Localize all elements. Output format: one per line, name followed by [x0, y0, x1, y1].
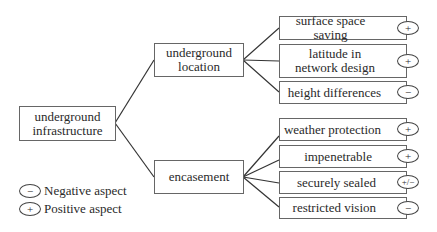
positive-aspect-icon: + [397, 54, 419, 68]
leaf-height-differences: height differences [279, 81, 407, 104]
mixed-aspect-icon: +/− [397, 175, 419, 189]
branch-label-2: location [178, 60, 220, 74]
negative-aspect-icon: − [19, 184, 41, 198]
positive-aspect-icon: + [397, 149, 419, 163]
root-label-2: infrastructure [32, 124, 102, 138]
root-node: underground infrastructure [19, 106, 116, 141]
negative-aspect-icon: − [397, 201, 419, 215]
legend-positive: + Positive aspect [19, 201, 122, 217]
leaf-label: impenetrable [304, 150, 372, 164]
legend-negative: − Negative aspect [19, 183, 127, 199]
leaf-label: height differences [288, 86, 381, 100]
leaf-label-2: network design [295, 61, 375, 75]
branch-label: encasement [169, 170, 230, 184]
legend-label: Negative aspect [44, 183, 127, 199]
negative-aspect-icon: − [397, 85, 419, 99]
leaf-label: securely sealed [297, 176, 376, 190]
positive-aspect-icon: + [397, 122, 419, 136]
leaf-label: surface space saving [280, 14, 381, 42]
positive-aspect-icon: + [397, 21, 419, 35]
positive-aspect-icon: + [19, 202, 41, 216]
root-label-1: underground [34, 110, 100, 124]
leaf-label: weather protection [284, 123, 381, 137]
leaf-label: restricted vision [293, 201, 376, 215]
branch-encasement: encasement [154, 160, 244, 194]
leaf-surface-space-saving: surface space saving [279, 16, 407, 40]
leaf-latitude-network-design: latitude in network design [279, 44, 407, 78]
legend-label: Positive aspect [44, 201, 122, 217]
branch-underground-location: underground location [154, 43, 244, 77]
leaf-label-1: latitude in [309, 47, 361, 61]
leaf-securely-sealed: securely sealed [279, 171, 407, 194]
leaf-restricted-vision: restricted vision [279, 197, 407, 219]
branch-label-1: underground [166, 46, 232, 60]
leaf-weather-protection: weather protection [279, 118, 407, 141]
leaf-impenetrable: impenetrable [279, 145, 407, 168]
